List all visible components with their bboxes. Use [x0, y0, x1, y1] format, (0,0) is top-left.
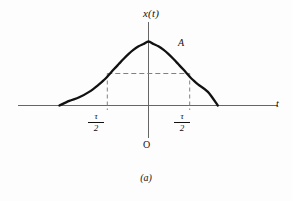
waveform-plot [0, 0, 292, 201]
figure-container: x(t) t A O τ 2 τ 2 (a) [0, 0, 292, 201]
y-axis-label: x(t) [143, 8, 159, 19]
tick-label-left-numerator: τ [88, 112, 104, 123]
tick-label-left-denominator: 2 [88, 123, 104, 133]
tick-label-right-numerator: τ [174, 112, 190, 123]
amplitude-label: A [178, 38, 184, 48]
x-axis-label: t [276, 99, 279, 109]
gaussian-pulse-curve [59, 42, 217, 106]
tick-label-left-tau-over-two: τ 2 [88, 112, 104, 133]
tick-label-right-tau-over-two: τ 2 [174, 112, 190, 133]
figure-caption: (a) [0, 173, 292, 183]
tick-label-right-denominator: 2 [174, 123, 190, 133]
origin-label: O [143, 140, 150, 150]
